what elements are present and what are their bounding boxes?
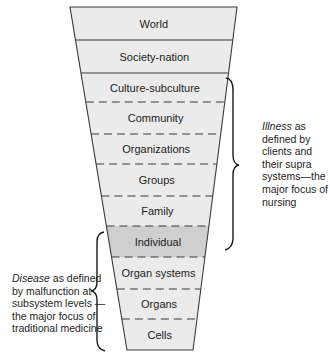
illness-annotation: Illness as defined by clients and their … <box>262 120 330 208</box>
level-label: Cells <box>147 329 172 341</box>
level-label: Society-nation <box>120 51 190 63</box>
level-label: Organ systems <box>122 267 196 279</box>
level-label: Organizations <box>122 143 190 155</box>
illness-emphasis: Illness <box>262 120 292 132</box>
illness-text: as defined by clients and their supra sy… <box>262 120 328 208</box>
level-label: Family <box>141 205 174 217</box>
disease-annotation: Disease as defined by malfunction at sub… <box>12 272 112 335</box>
level-label: Individual <box>135 236 181 248</box>
level-label: World <box>140 18 169 30</box>
right-brace-icon <box>225 78 239 250</box>
level-label: Organs <box>141 298 178 310</box>
level-label: Community <box>128 112 184 124</box>
level-label: Culture-subculture <box>110 82 200 94</box>
disease-emphasis: Disease <box>12 272 50 284</box>
level-label: Groups <box>139 174 176 186</box>
